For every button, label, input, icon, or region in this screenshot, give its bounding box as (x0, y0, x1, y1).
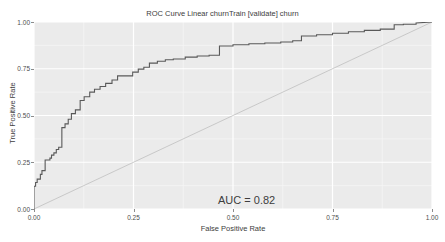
x-tick-mark (333, 209, 334, 212)
x-tick-label: 0.00 (14, 214, 54, 221)
y-tick-mark (31, 69, 34, 70)
x-tick-label: 0.50 (213, 214, 253, 221)
x-tick-mark (233, 209, 234, 212)
plot-area-svg (34, 22, 432, 209)
auc-annotation: AUC = 0.82 (218, 194, 275, 207)
y-tick-label: 1.00 (2, 19, 30, 26)
chart-title: ROC Curve Linear churnTrain [validate] c… (0, 9, 445, 19)
x-tick-mark (134, 209, 135, 212)
x-tick-label: 0.75 (313, 214, 353, 221)
x-axis-title: False Positive Rate (34, 224, 432, 234)
x-tick-label: 1.00 (412, 214, 445, 221)
plot-panel (34, 22, 432, 209)
y-tick-mark (31, 162, 34, 163)
y-axis-title: True Positive Rate (8, 53, 18, 173)
x-tick-label: 0.25 (114, 214, 154, 221)
y-tick-label: 0.00 (2, 206, 30, 213)
x-tick-mark (432, 209, 433, 212)
y-tick-mark (31, 22, 34, 23)
x-tick-mark (34, 209, 35, 212)
clipped-header-text: ························· (0, 0, 445, 5)
roc-chart-figure: ························· ROC Curve Line… (0, 0, 445, 242)
y-tick-mark (31, 116, 34, 117)
x-axis-ticks: 0.000.250.500.751.00 (34, 209, 432, 225)
